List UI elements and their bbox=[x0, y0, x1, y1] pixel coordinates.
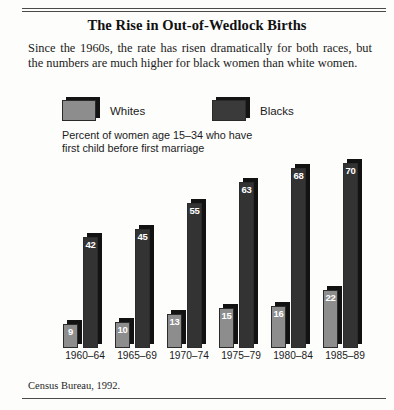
bar-value-label: 68 bbox=[291, 170, 306, 181]
x-axis-tick: 1975–79 bbox=[215, 350, 267, 361]
bar-whites: 15 bbox=[219, 308, 234, 348]
bar-value-label: 13 bbox=[167, 316, 182, 327]
legend-swatch-whites bbox=[62, 100, 98, 122]
x-axis-tick: 1980–84 bbox=[267, 350, 319, 361]
x-axis-tick: 1985–89 bbox=[319, 350, 371, 361]
bar-blacks: 45 bbox=[135, 229, 150, 348]
bar-value-label: 42 bbox=[83, 239, 98, 250]
bar-whites: 16 bbox=[271, 306, 286, 348]
bar-value-label: 63 bbox=[239, 184, 254, 195]
bar-face bbox=[291, 168, 306, 348]
chart-subtitle: Since the 1960s, the rate has risen dram… bbox=[28, 41, 372, 71]
chart-title: The Rise in Out-of-Wedlock Births bbox=[0, 17, 394, 34]
bar-value-label: 55 bbox=[187, 205, 202, 216]
bar-whites: 13 bbox=[167, 314, 182, 348]
legend-item-blacks: Blacks bbox=[212, 98, 294, 124]
bar-group: 942 bbox=[62, 150, 108, 348]
legend-swatch-face bbox=[212, 100, 246, 121]
bar-face bbox=[239, 182, 254, 348]
bar-group: 1355 bbox=[166, 150, 212, 348]
bar-group: 1563 bbox=[218, 150, 264, 348]
bar-value-label: 15 bbox=[219, 310, 234, 321]
legend-label-whites: Whites bbox=[110, 105, 145, 117]
x-axis-labels: 1960–641965–691970–741975–791980–841985–… bbox=[62, 350, 374, 364]
legend-swatch-blacks bbox=[212, 100, 248, 122]
x-axis-tick: 1960–64 bbox=[59, 350, 111, 361]
bar-whites: 10 bbox=[115, 322, 130, 348]
bar-whites: 22 bbox=[323, 290, 338, 348]
bar-value-label: 9 bbox=[63, 326, 78, 337]
bar-group: 2270 bbox=[322, 150, 368, 348]
bar-value-label: 45 bbox=[135, 231, 150, 242]
x-axis-tick: 1970–74 bbox=[163, 350, 215, 361]
bar-blacks: 55 bbox=[187, 203, 202, 348]
bar-group: 1045 bbox=[114, 150, 160, 348]
bar-blacks: 42 bbox=[83, 237, 98, 348]
legend-item-whites: Whites bbox=[62, 98, 145, 124]
bar-value-label: 10 bbox=[115, 324, 130, 335]
bar-whites: 9 bbox=[63, 324, 78, 348]
bar-blacks: 68 bbox=[291, 168, 306, 348]
top-divider bbox=[22, 8, 386, 12]
bar-chart-plot: 94210451355156316682270 bbox=[62, 150, 374, 348]
bar-blacks: 63 bbox=[239, 182, 254, 348]
bar-face bbox=[187, 203, 202, 348]
chart-page: The Rise in Out-of-Wedlock Births Since … bbox=[0, 0, 394, 410]
bar-value-label: 16 bbox=[271, 308, 286, 319]
legend-swatch-face bbox=[62, 100, 96, 121]
x-axis-tick: 1965–69 bbox=[111, 350, 163, 361]
bar-value-label: 22 bbox=[323, 292, 338, 303]
bar-face bbox=[83, 237, 98, 348]
bar-group: 1668 bbox=[270, 150, 316, 348]
bottom-divider bbox=[22, 398, 386, 400]
legend-label-blacks: Blacks bbox=[260, 105, 294, 117]
bar-blacks: 70 bbox=[343, 163, 358, 348]
bar-value-label: 70 bbox=[343, 165, 358, 176]
bar-face bbox=[343, 163, 358, 348]
bar-face bbox=[135, 229, 150, 348]
source-note: Census Bureau, 1992. bbox=[28, 380, 120, 391]
